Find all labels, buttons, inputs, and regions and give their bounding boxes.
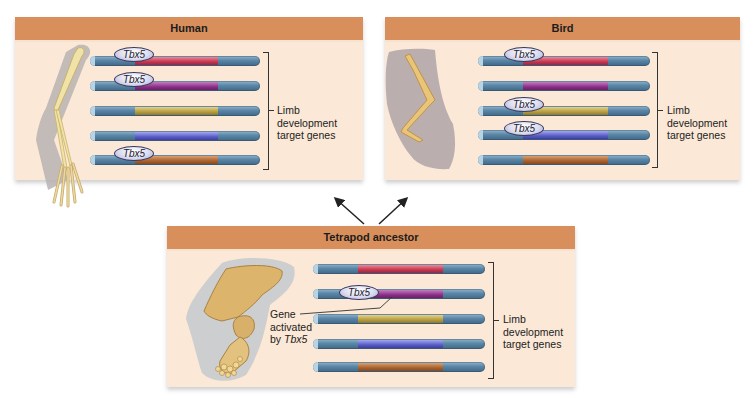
gene-bar-red [313,264,485,274]
human-bracket [263,52,269,170]
tbx5-protein: Tbx5 [114,47,154,62]
bird-bracket-tick [658,110,663,111]
gene-bar-olive [90,106,260,116]
bird-panel-title: Bird [385,17,740,42]
tbx5-protein: Tbx5 [114,146,154,161]
gene-bar-blue [313,339,485,349]
gene-bar-brown [478,155,650,165]
bird-bracket-label: Limb development target genes [667,104,727,142]
arrow-to-bird [379,199,406,224]
gene-activated-callout: Gene activated by Tbx5 [270,308,312,346]
ancestor-bracket-label: Limb development target genes [503,313,563,351]
tbx5-protein: Tbx5 [114,72,154,87]
tbx5-protein: Tbx5 [504,121,544,136]
gene-bar-olive [478,106,650,116]
ancestor-panel-title: Tetrapod ancestor [167,226,575,251]
human-panel-title: Human [15,17,363,42]
gene-bar-blue [478,130,650,140]
tbx5-protein: Tbx5 [339,285,379,300]
tbx5-protein: Tbx5 [504,97,544,112]
gene-bar-red [478,56,650,66]
bird-wing-icon [383,44,463,174]
ancestor-bracket-tick [494,320,499,321]
human-bracket-label: Limb development target genes [277,104,337,142]
human-bracket-tick [269,110,274,111]
gene-bar-olive [313,314,485,324]
human-arm-icon [28,40,98,210]
tbx5-protein: Tbx5 [504,47,544,62]
arrow-to-human [336,199,364,224]
gene-bar-brown [313,362,485,372]
gene-bar-blue [90,131,260,141]
gene-bar-purple [478,81,650,91]
